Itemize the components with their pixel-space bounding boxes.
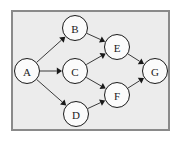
- graph-node-a[interactable]: A: [15, 59, 40, 84]
- graph-node-g[interactable]: G: [143, 59, 168, 84]
- edge-a-to-d: [37, 80, 66, 106]
- edge-c-to-f: [86, 77, 105, 88]
- graph-node-b[interactable]: B: [63, 16, 88, 41]
- edge-b-to-e: [87, 33, 105, 42]
- graph-node-c[interactable]: C: [63, 59, 88, 84]
- node-label: D: [72, 109, 80, 121]
- graph-node-f[interactable]: F: [105, 83, 130, 108]
- node-label: E: [114, 42, 121, 54]
- graph-svg: ABCDEFG: [0, 0, 181, 141]
- node-label: F: [114, 90, 120, 102]
- node-label: C: [71, 66, 78, 78]
- edge-f-to-g: [128, 78, 144, 88]
- edge-e-to-g: [128, 54, 144, 64]
- nodes-layer: ABCDEFG: [15, 16, 168, 127]
- edge-d-to-f: [88, 100, 105, 109]
- diagram-canvas: ABCDEFG: [0, 0, 181, 141]
- node-label: A: [23, 66, 31, 78]
- graph-node-d[interactable]: D: [64, 102, 89, 127]
- edge-c-to-e: [86, 53, 105, 64]
- edge-a-to-b: [37, 37, 66, 63]
- graph-node-e[interactable]: E: [105, 35, 130, 60]
- node-label: B: [71, 23, 78, 35]
- edge-a-to-c: [40, 68, 62, 75]
- node-label: G: [151, 66, 159, 78]
- arrowhead-icon: [57, 68, 62, 75]
